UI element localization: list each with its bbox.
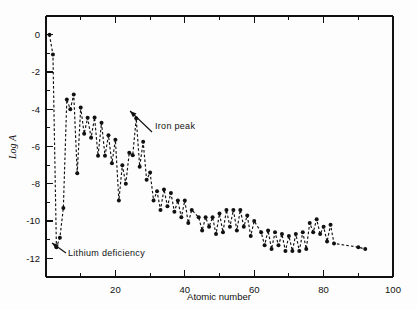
data-point <box>51 53 55 57</box>
annotation-label-iron-peak: Iron peak <box>155 121 195 131</box>
data-point <box>120 163 124 167</box>
data-point <box>228 225 232 229</box>
data-point <box>159 208 163 212</box>
x-axis-title: Atomic number <box>187 291 251 302</box>
y-tick-label: -2 <box>32 66 40 77</box>
data-point <box>113 138 117 142</box>
data-point <box>235 228 239 232</box>
data-point <box>200 228 204 232</box>
data-point <box>245 213 249 217</box>
data-point <box>231 208 235 212</box>
data-point <box>117 199 121 203</box>
data-point <box>176 199 180 203</box>
data-point <box>68 107 72 111</box>
data-point <box>224 208 228 212</box>
data-point <box>103 154 107 158</box>
data-point <box>141 140 145 144</box>
y-axis-ticks: 0-2-4-6-8-10-12 <box>26 16 53 277</box>
x-tick-label: 100 <box>385 284 401 295</box>
data-point <box>61 206 65 210</box>
data-point <box>138 165 142 169</box>
data-point <box>290 249 294 253</box>
data-point <box>204 215 208 219</box>
data-point <box>311 230 315 234</box>
data-point <box>249 234 253 238</box>
data-point <box>110 161 114 165</box>
data-point <box>148 171 152 175</box>
data-point <box>301 230 305 234</box>
data-point <box>169 191 173 195</box>
y-tick-label: -6 <box>32 141 40 152</box>
data-point <box>329 223 333 227</box>
data-point <box>270 247 274 251</box>
data-point <box>89 136 93 140</box>
data-point <box>47 33 51 37</box>
data-point <box>332 241 336 245</box>
data-point <box>318 232 322 236</box>
data-point <box>214 232 218 236</box>
data-point <box>58 236 62 240</box>
data-point <box>315 217 319 221</box>
y-tick-label: -8 <box>32 178 40 189</box>
y-tick-label: 0 <box>35 29 40 40</box>
data-point <box>356 245 360 249</box>
data-point <box>72 92 76 96</box>
data-point <box>152 199 156 203</box>
data-point <box>287 234 291 238</box>
x-tick-label: 20 <box>110 284 121 295</box>
data-point <box>127 151 131 155</box>
data-point <box>304 247 308 251</box>
data-point <box>238 208 242 212</box>
data-point <box>183 199 187 203</box>
data-point <box>283 249 287 253</box>
data-point <box>197 215 201 219</box>
data-point <box>294 232 298 236</box>
data-point <box>131 153 135 157</box>
data-point <box>106 133 110 137</box>
data-point <box>145 178 149 182</box>
y-tick-label: -12 <box>26 253 40 264</box>
data-point <box>96 154 100 158</box>
data-point <box>297 249 301 253</box>
data-point <box>124 182 128 186</box>
annotation-group: Iron peakLithium deficiency <box>52 111 195 258</box>
data-point <box>218 212 222 216</box>
chart-figure: 0-2-4-6-8-10-12 20406080100 Atomic numbe… <box>0 0 417 309</box>
data-point <box>86 116 90 120</box>
data-point <box>79 106 83 110</box>
data-point <box>93 116 97 120</box>
data-point <box>165 204 169 208</box>
x-tick-label: 80 <box>318 284 329 295</box>
data-point <box>211 215 215 219</box>
data-point <box>65 98 69 102</box>
abundance-scatter-line-chart: 0-2-4-6-8-10-12 20406080100 Atomic numbe… <box>0 0 417 309</box>
y-axis-title: Log A <box>7 134 18 160</box>
data-point <box>100 121 104 125</box>
data-point <box>82 132 86 136</box>
data-point <box>207 225 211 229</box>
data-point <box>308 221 312 225</box>
y-tick-label: -4 <box>32 104 40 115</box>
data-point <box>276 243 280 247</box>
data-point <box>242 225 246 229</box>
data-point <box>155 189 159 193</box>
annotation-label-lithium-deficiency: Lithium deficiency <box>68 248 145 258</box>
data-point <box>363 247 367 251</box>
data-point <box>325 240 329 244</box>
data-point <box>266 228 270 232</box>
data-point <box>190 208 194 212</box>
data-point <box>221 230 225 234</box>
data-point <box>263 243 267 247</box>
data-series-group <box>47 33 367 253</box>
data-point <box>280 232 284 236</box>
data-point <box>322 225 326 229</box>
data-point <box>162 187 166 191</box>
data-point <box>179 215 183 219</box>
data-point <box>186 221 190 225</box>
data-point <box>273 230 277 234</box>
data-point <box>252 219 256 223</box>
data-point <box>259 230 263 234</box>
plot-frame <box>46 16 393 277</box>
y-tick-label: -10 <box>26 215 40 226</box>
data-point <box>172 210 176 214</box>
